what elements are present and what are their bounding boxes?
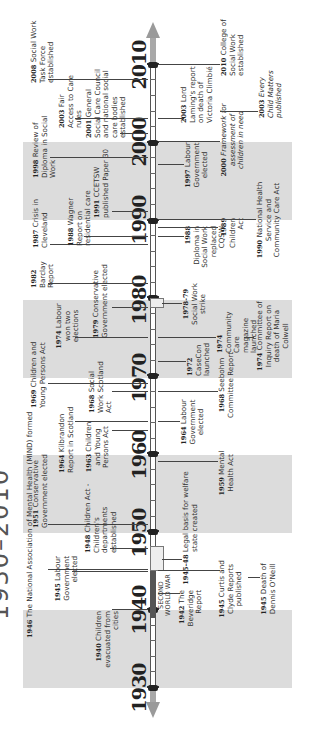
- event-2003-fair-access: 2003 Fair Access to Care rules: [58, 68, 84, 128]
- axis-tick: [150, 640, 156, 641]
- axis-tick: [150, 79, 156, 80]
- leader-line: [220, 111, 258, 112]
- second-world-war-label: SECOND WORLD WAR: [158, 570, 172, 620]
- leader-line: [158, 219, 256, 220]
- axis-tick: [150, 282, 156, 283]
- leader-line: [158, 421, 180, 422]
- axis-tick: [150, 235, 156, 236]
- event-1968-sw-scotland: 1968 Social Work Scotland Act: [88, 351, 114, 413]
- axis-tick: [150, 391, 156, 392]
- event-1997-labour: 1997 Labour Government elected: [184, 137, 210, 193]
- leader-line: [112, 391, 148, 392]
- leader-line: [48, 79, 148, 80]
- second-world-war-bar: [150, 571, 156, 618]
- event-1940-evacuation: 1940 Children evacuated from cities: [95, 611, 121, 683]
- leader-line: [158, 391, 218, 392]
- leader-line: [158, 361, 186, 362]
- axis-tick: [150, 422, 156, 423]
- leader-line: [158, 337, 216, 338]
- decade-label-1960: 1960: [128, 431, 150, 480]
- event-1942-beveridge: 1942 The Beveridge Report: [178, 590, 204, 648]
- leader-line: [158, 570, 220, 571]
- event-1948-children-act: 1948 Children Act - Children's departmen…: [84, 483, 118, 553]
- event-1969-cyp-act: 1969 Children and Young Persons Act: [30, 326, 47, 408]
- event-1951-conservative: 1951 Conservative Government elected: [32, 448, 49, 528]
- axis-tick: [150, 126, 156, 127]
- leader-line: [72, 571, 148, 572]
- event-2003-laming-report: 2003 Lord Laming's report on death of Vi…: [180, 61, 214, 123]
- decade-label-1990: 1990: [128, 196, 150, 245]
- leader-line: [162, 559, 182, 560]
- axis-shaft-right: [150, 37, 156, 65]
- event-2000-framework: 2000 Framework for assessment of childre…: [220, 102, 246, 178]
- axis-tick: [150, 469, 156, 470]
- event-1945-dennis-oneill: 1945 Death of Dennis O'Neill: [260, 560, 277, 618]
- leader-line: [158, 164, 184, 165]
- leader-line: [112, 307, 148, 308]
- axis-tick: [150, 344, 156, 345]
- axis-tick: [150, 173, 156, 174]
- leader-line: [244, 337, 254, 338]
- decade-label-1940: 1940: [128, 586, 150, 635]
- axis-tick: [150, 251, 156, 252]
- event-1974-maria-colwell: 1974 Committee of Inquiry Report on deat…: [256, 296, 290, 376]
- event-1963-cyp-act: 1963 Children and Young Persons Act: [85, 418, 111, 476]
- decade-label-1950: 1950: [128, 509, 150, 558]
- axis-tick: [150, 671, 156, 672]
- page-title: 1930–2010: [0, 468, 14, 620]
- event-1968-seebohm: 1968 Seebohm Committee Report: [218, 350, 235, 420]
- leader-line: [75, 337, 148, 338]
- leader-line: [50, 157, 148, 158]
- event-1974-labour-two-elections: 1974 Labour won two elections: [55, 296, 81, 356]
- event-1945-labour: 1945 Labour Government elected: [54, 556, 80, 618]
- event-1959-mental-health-act: 1959 Mental Health Act: [218, 448, 235, 498]
- leader-line: [158, 64, 220, 65]
- decade-label-1970: 1970: [128, 354, 150, 403]
- axis-tick: [150, 625, 156, 626]
- decade-label-2000: 2000: [128, 118, 150, 167]
- axis-tick: [150, 111, 156, 112]
- event-1990-nhs-community-care-act: 1990 National Health Service and Communi…: [256, 180, 282, 260]
- axis-tick: [150, 500, 156, 501]
- leader-line: [162, 303, 182, 304]
- axis-tick: [150, 484, 156, 485]
- axis-tick: [150, 313, 156, 314]
- leader-line: [158, 461, 218, 462]
- axis-tick: [150, 266, 156, 267]
- leader-line: [158, 141, 220, 142]
- leader-line: [112, 211, 148, 212]
- leader-line: [112, 609, 148, 610]
- event-1945-curtis-clyde: 1945 Curtis and Clyde Reports published: [218, 560, 244, 618]
- axis-tick: [150, 360, 156, 361]
- axis-tick: [150, 329, 156, 330]
- event-2008-task-force: 2008 Social Work Task Force established: [30, 3, 56, 83]
- event-1998-diploma-review: 1998 Review of Diploma in Social Work: [32, 98, 58, 178]
- axis-tick: [150, 188, 156, 189]
- event-1979-conservative: 1979 Conservative Government elected: [92, 258, 109, 338]
- band-1930s: [23, 610, 292, 688]
- decade-label-2010: 2010: [128, 41, 150, 90]
- event-1989-children-act: 1989 Children Act: [220, 218, 246, 260]
- axis-tick: [150, 407, 156, 408]
- event-1982-barclay: 1982 Barclay Report: [30, 243, 56, 288]
- event-1964-labour: 1964 Labour Government elected: [180, 394, 206, 450]
- event-1988-wagner: 1988 Wagner Report on residential care: [67, 176, 93, 246]
- leader-line: [84, 236, 148, 237]
- leader-line: [158, 236, 184, 237]
- axis-tick: [150, 438, 156, 439]
- timeline-canvas: 1930–2010 SECOND WORLD WAR 1930 1940 195…: [0, 0, 309, 738]
- leader-line: [50, 244, 148, 245]
- event-2010-college-of-social-work: 2010 College of Social Work established: [220, 16, 246, 76]
- event-1978-79-strike: 1978-79 Social Work strike: [182, 280, 208, 328]
- axis-tick: [150, 516, 156, 517]
- event-1987-cleveland: 1987 Crisis in Cleveland: [32, 198, 49, 248]
- arrow-right-icon: [146, 22, 160, 38]
- decade-label-1930: 1930: [128, 664, 150, 713]
- event-2003-every-child-matters: 2003 Every Child Matters published: [258, 58, 284, 118]
- event-1972-casecon: 1972 CaseCon launched: [186, 336, 212, 376]
- axis-tick: [150, 204, 156, 205]
- event-1974-community-care-magazine: 1974 Community Care magazine launched: [216, 301, 259, 353]
- leader-line: [158, 227, 218, 228]
- axis-tick: [150, 157, 156, 158]
- band-1990s: [23, 142, 292, 220]
